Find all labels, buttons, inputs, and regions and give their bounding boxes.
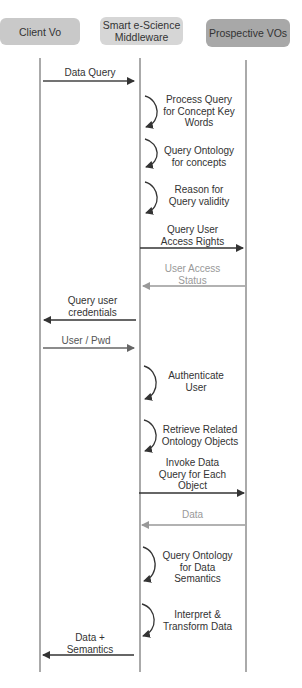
label-line: Retrieve Related [155,424,245,436]
label-query-ontology: Query Ontology for concepts [158,145,240,168]
label-retrieve: Retrieve Related Ontology Objects [155,424,245,447]
label-line: Interpret & [155,609,240,621]
label-line: for Concept Key [158,106,240,118]
label-line: Query for Each [150,469,235,481]
label-line: Query Ontology [158,145,240,157]
label-user-access-status: User Access Status [150,263,235,286]
label-line: Query User [150,224,235,236]
label-process-query: Process Query for Concept Key Words [158,94,240,129]
label-line: Words [158,117,240,129]
label-user-pwd: User / Pwd [46,335,126,347]
label-line: Query validity [158,196,240,208]
label-line: Invoke Data [150,457,235,469]
label-line: User [155,382,237,394]
label-line: Object [150,480,235,492]
label-line: User / Pwd [46,335,126,347]
label-line: Data + [50,632,130,644]
label-line: Transform Data [155,621,240,633]
label-line: Data [150,509,235,521]
self-loop-interpret [142,604,154,636]
label-line: Process Query [158,94,240,106]
label-line: Status [150,275,235,287]
label-query-credentials: Query user credentials [50,295,135,318]
label-line: Semantics [50,644,130,656]
label-query-semantics: Query Ontology for Data Semantics [155,550,240,585]
label-line: Authenticate [155,370,237,382]
self-loop-query-ontology [145,139,157,167]
label-data-semantics: Data + Semantics [50,632,130,655]
self-loop-process-query [145,96,157,127]
label-query-access-rights: Query User Access Rights [150,224,235,247]
label-interpret: Interpret & Transform Data [155,609,240,632]
label-reason: Reason for Query validity [158,184,240,207]
label-line: Reason for [158,184,240,196]
label-line: Access Rights [150,236,235,248]
label-line: credentials [50,307,135,319]
label-line: for concepts [158,157,240,169]
label-invoke-data-query: Invoke Data Query for Each Object [150,457,235,492]
label-line: User Access [150,263,235,275]
self-loop-reason [145,182,157,213]
label-line: Ontology Objects [155,436,245,448]
self-loop-query-semantics [143,547,155,581]
label-data-query: Data Query [50,67,130,79]
label-line: Semantics [155,573,240,585]
label-authenticate: Authenticate User [155,370,237,393]
label-line: Query user [50,295,135,307]
label-line: for Data [155,562,240,574]
label-line: Query Ontology [155,550,240,562]
label-data-return: Data [150,509,235,521]
label-line: Data Query [50,67,130,79]
